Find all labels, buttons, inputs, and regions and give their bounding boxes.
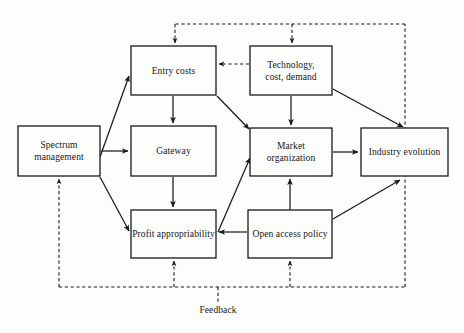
- node-box-open-access-policy: [248, 210, 332, 258]
- feedback-label: Feedback: [188, 305, 248, 315]
- node-box-technology-cost-demand: [250, 46, 332, 95]
- diagram-graphics: [0, 0, 464, 333]
- profit-appropriability-to-market-organization: [218, 158, 250, 232]
- node-box-gateway: [131, 126, 216, 176]
- node-box-industry-evolution: [361, 128, 448, 176]
- node-box-entry-costs: [131, 46, 216, 95]
- node-boxes: [18, 46, 448, 258]
- node-box-profit-appropriability: [131, 210, 216, 258]
- node-box-market-organization: [250, 128, 332, 176]
- open-access-to-industry-evolution: [333, 180, 400, 219]
- technology-to-industry-evolution: [333, 89, 403, 127]
- diagram-canvas: Spectrum management Entry costs Gateway …: [0, 0, 464, 333]
- node-box-spectrum-management: [18, 126, 100, 176]
- spectrum-to-profit-appropriability: [100, 177, 129, 231]
- dashed-feedback-edges: [59, 24, 405, 302]
- spectrum-to-entry-costs: [100, 76, 129, 157]
- entry-costs-to-market-organization: [217, 96, 249, 129]
